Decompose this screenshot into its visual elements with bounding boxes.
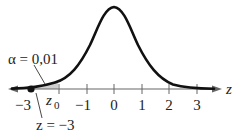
tick-label-3: 3	[193, 97, 201, 113]
axis-label-z: z	[225, 81, 232, 97]
tick-label-1: 1	[138, 97, 146, 113]
critical-value-label: z	[45, 92, 52, 108]
critical-value-subscript: 0	[54, 99, 60, 111]
tick-label-0: 0	[110, 97, 118, 113]
z-stat-leader-line	[36, 93, 42, 118]
normal-curve-diagram: −3 −1 0 1 2 3 z 0 z α = 0,01 z = −3	[0, 0, 236, 140]
test-statistic-label: z = −3	[36, 117, 75, 133]
test-statistic-point	[27, 85, 34, 92]
normal-curve	[12, 7, 214, 89]
alpha-label: α = 0,01	[8, 51, 58, 67]
tick-label-neg1: −1	[75, 97, 91, 113]
tick-label-neg3: −3	[15, 97, 31, 113]
tick-label-2: 2	[165, 97, 173, 113]
alpha-leader-line	[34, 65, 45, 84]
